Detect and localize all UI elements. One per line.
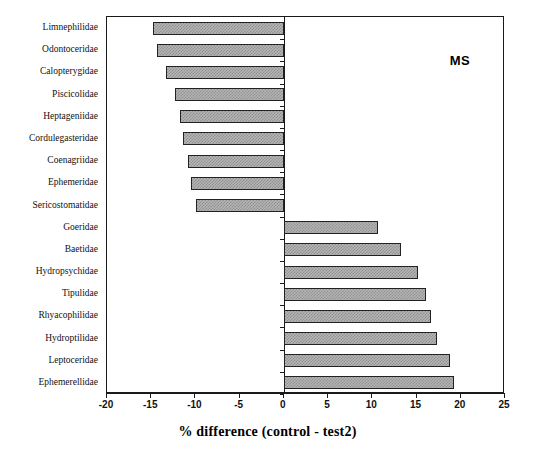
x-axis-tick-label: -5 xyxy=(234,399,243,410)
bar xyxy=(284,332,437,345)
y-axis-tick xyxy=(280,327,284,328)
x-axis-tick xyxy=(327,393,328,398)
plot-area xyxy=(106,16,504,393)
x-axis-tick-label: -15 xyxy=(143,399,157,410)
x-axis-tick xyxy=(150,393,151,398)
x-axis-tick xyxy=(239,393,240,398)
y-axis-label: Coenagriidae xyxy=(47,155,98,165)
y-axis-tick xyxy=(280,350,284,351)
x-axis-line xyxy=(106,393,504,394)
bar xyxy=(284,354,450,367)
y-axis-label: Tipulidae xyxy=(62,288,98,298)
y-axis-tick xyxy=(280,172,284,173)
bar xyxy=(166,66,284,79)
y-axis-label: Limnephilidae xyxy=(43,22,98,32)
x-axis-tick xyxy=(283,393,284,398)
y-axis-tick xyxy=(280,217,284,218)
x-axis-title: % difference (control - test2) xyxy=(0,424,535,440)
y-axis-tick xyxy=(280,239,284,240)
bar xyxy=(188,155,284,168)
x-axis-tick xyxy=(460,393,461,398)
y-axis-label: Sericostomatidae xyxy=(33,200,98,210)
bar xyxy=(284,243,401,256)
bar xyxy=(183,132,284,145)
y-axis-tick xyxy=(280,84,284,85)
bar xyxy=(180,110,284,123)
bar xyxy=(175,88,284,101)
bar xyxy=(191,177,284,190)
x-axis-tick-label: 25 xyxy=(498,399,509,410)
y-axis-tick xyxy=(280,305,284,306)
y-axis-label: Goeridae xyxy=(63,222,98,232)
y-axis-label: Cordulegasteridae xyxy=(29,133,98,143)
y-axis-label: Odontoceridae xyxy=(42,44,98,54)
bar xyxy=(284,266,418,279)
bar xyxy=(196,199,284,212)
y-axis-tick xyxy=(280,194,284,195)
x-axis-tick-label: -10 xyxy=(187,399,201,410)
y-axis-tick xyxy=(280,39,284,40)
y-axis-label: Piscicolidae xyxy=(52,89,98,99)
y-axis-label: Baetidae xyxy=(65,244,98,254)
x-axis-tick xyxy=(106,393,107,398)
y-axis-label: Calopterygidae xyxy=(40,66,98,76)
y-axis-category-labels: LimnephilidaeOdontoceridaeCalopterygidae… xyxy=(0,16,102,393)
bar xyxy=(284,221,378,234)
x-axis-tick-label: 0 xyxy=(280,399,286,410)
y-axis-label: Leptoceridae xyxy=(48,355,98,365)
bar xyxy=(284,288,426,301)
y-axis-label: Ephemerellidae xyxy=(38,377,98,387)
x-axis-tick-label: 5 xyxy=(324,399,330,410)
bar xyxy=(153,22,284,35)
y-axis-tick xyxy=(280,128,284,129)
y-axis-label: Hydroptilidae xyxy=(45,333,98,343)
annotation-ms: MS xyxy=(450,53,471,68)
y-axis-tick xyxy=(280,283,284,284)
x-axis-tick-label: 10 xyxy=(366,399,377,410)
y-axis-tick xyxy=(280,261,284,262)
y-axis-label: Rhyacophilidae xyxy=(38,310,98,320)
x-axis-tick-label: 20 xyxy=(454,399,465,410)
x-axis-tick xyxy=(504,393,505,398)
y-axis-tick xyxy=(280,372,284,373)
bar xyxy=(157,44,283,57)
y-axis-label: Ephemeridae xyxy=(48,177,98,187)
bar xyxy=(284,376,454,389)
y-axis-tick xyxy=(280,61,284,62)
x-axis-tick-label: -20 xyxy=(99,399,113,410)
y-axis-tick xyxy=(280,106,284,107)
x-axis-tick xyxy=(371,393,372,398)
y-axis-tick xyxy=(280,150,284,151)
y-axis-label: Heptageniidae xyxy=(43,111,98,121)
bar xyxy=(284,310,431,323)
chart-figure: LimnephilidaeOdontoceridaeCalopterygidae… xyxy=(0,0,535,453)
y-axis-label: Hydropsychidae xyxy=(36,266,98,276)
x-axis-tick xyxy=(194,393,195,398)
x-axis-tick-label: 15 xyxy=(410,399,421,410)
x-axis-tick xyxy=(416,393,417,398)
